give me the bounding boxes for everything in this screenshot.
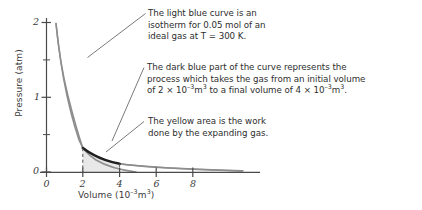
annotation-dark-curve-line-3: of 2 × 10–3m3 to a final volume of 4 × 1… — [147, 85, 365, 97]
dark-curve-l3-d: m — [332, 85, 340, 95]
x-tick-label-0: 0 — [44, 178, 50, 189]
annotation-dark-curve: The dark blue part of the curve represen… — [147, 62, 365, 97]
x-axis-title-part-b: m — [138, 190, 147, 200]
x-axis-title-part-c: ) — [151, 190, 155, 200]
y-axis-title: Pressure (atm) — [14, 43, 24, 123]
y-tick-label-0: 0 — [33, 165, 39, 176]
leader-line-light-curve — [88, 14, 146, 58]
leader-line-yellow-area — [106, 122, 144, 153]
x-tick-label-4: 4 — [117, 178, 123, 189]
figure-container: 2 1 0 0 2 4 6 8 Pressure (atm) Volume (1… — [0, 0, 422, 210]
y-tick-label-2: 2 — [33, 16, 39, 27]
dark-curve-l3-a: of 2 × 10 — [147, 85, 187, 95]
dark-curve-l3-c: to a final volume of 4 × 10 — [207, 85, 325, 95]
dark-curve-l3-e: . — [344, 85, 347, 95]
x-axis-title-part-a: Volume (10 — [78, 190, 130, 200]
annotation-yellow-area: The yellow area is the work done by the … — [148, 116, 268, 139]
annotation-light-curve-line-2: isotherm for 0.05 mol of an — [148, 20, 266, 32]
annotation-dark-curve-line-1: The dark blue part of the curve represen… — [147, 62, 365, 74]
dark-curve-l3-sup3: –3 — [325, 83, 332, 91]
x-axis-title-exponent: –3 — [130, 188, 137, 196]
annotation-light-curve-line-3: ideal gas at T = 300 K. — [148, 31, 266, 43]
annotation-yellow-area-line-1: The yellow area is the work — [148, 116, 268, 128]
x-tick-label-2: 2 — [80, 178, 86, 189]
x-tick-label-8: 8 — [190, 178, 196, 189]
leader-line-dark-curve — [112, 68, 144, 142]
x-tick-label-6: 6 — [154, 178, 160, 189]
annotation-light-curve-line-1: The light blue curve is an — [148, 8, 266, 20]
x-axis-title: Volume (10–3m3) — [78, 190, 154, 200]
annotation-dark-curve-line-2: process which takes the gas from an init… — [147, 74, 365, 86]
annotation-yellow-area-line-2: done by the expanding gas. — [148, 128, 268, 140]
y-tick-label-1: 1 — [34, 91, 40, 102]
annotation-light-curve: The light blue curve is an isotherm for … — [148, 8, 266, 43]
dark-curve-l3-b: m — [194, 85, 202, 95]
